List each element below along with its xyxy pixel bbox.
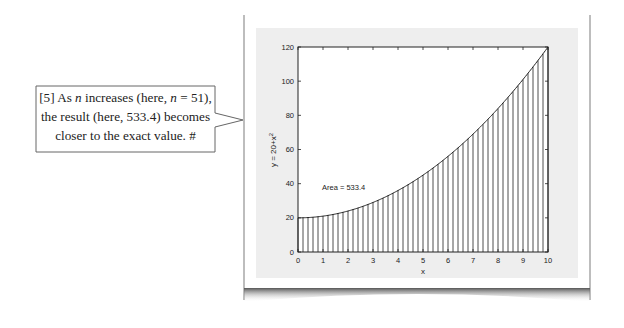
callout-box: [0, 0, 624, 328]
callout-line-1: [5] As n increases (here, n = 51),: [36, 88, 215, 107]
callout-line-2: the result (here, 533.4) becomes: [36, 107, 215, 126]
callout-text: [5] As n increases (here, n = 51), the r…: [36, 88, 215, 145]
callout-line-3: closer to the exact value. #: [36, 126, 215, 145]
